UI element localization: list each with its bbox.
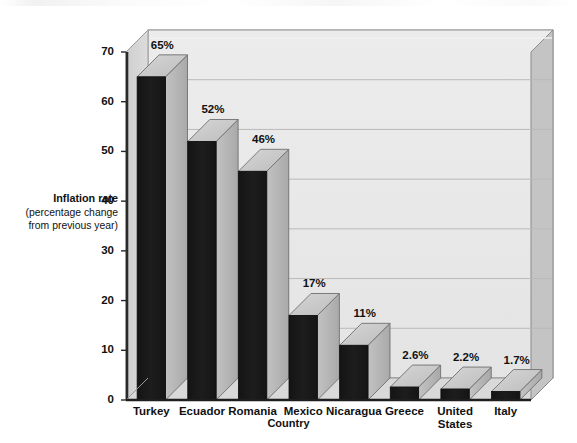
bar-front-face — [289, 315, 317, 400]
bar-value-label: 65% — [124, 39, 201, 52]
plot-right-slab — [531, 30, 553, 400]
bar-value-label: 1.7% — [478, 354, 555, 367]
y-axis-tick-label: 40 — [84, 194, 114, 207]
bar-front-face — [441, 389, 469, 400]
bar-value-label: 17% — [276, 277, 353, 290]
bar — [238, 149, 288, 400]
bar-front-face — [137, 77, 165, 400]
bar-side-face — [216, 119, 238, 400]
y-axis-label-sub-line-2: from previous year) — [14, 219, 118, 232]
bar-value-label: 46% — [225, 133, 302, 146]
y-axis-tick-label: 0 — [84, 393, 114, 406]
y-axis-tick-label: 20 — [84, 294, 114, 307]
bar-front-face — [340, 345, 368, 400]
y-axis-tick-label: 50 — [84, 144, 114, 157]
bar-front-face — [188, 141, 216, 400]
bar-side-face — [267, 149, 289, 400]
category-label-line: Italy — [473, 405, 538, 418]
inflation-rate-bar-chart: Inflation rate (percentage change from p… — [0, 0, 577, 443]
y-axis-tick-label: 10 — [84, 343, 114, 356]
y-axis-tick-label: 60 — [84, 95, 114, 108]
y-axis-label-sub-line-1: (percentage change — [14, 206, 118, 219]
bar-front-face — [238, 171, 266, 400]
y-axis-tick-label: 70 — [84, 45, 114, 58]
bar-value-label: 52% — [175, 103, 252, 116]
x-axis-label: Country — [0, 417, 577, 429]
bar-front-face — [390, 387, 418, 400]
category-label: Italy — [473, 405, 538, 418]
value-axis-ticks — [121, 52, 126, 400]
bar — [188, 119, 238, 400]
y-axis-tick-label: 30 — [84, 244, 114, 257]
bar-value-label: 11% — [327, 307, 404, 320]
